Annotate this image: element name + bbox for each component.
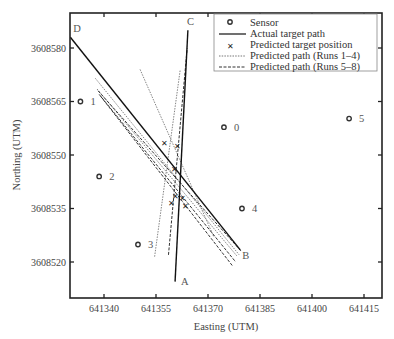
y-tick-label: 3608535 bbox=[31, 203, 66, 214]
predicted-path-runs-5-8 bbox=[101, 96, 233, 265]
y-tick-label: 3608565 bbox=[31, 96, 66, 107]
path-label-A: A bbox=[181, 276, 189, 287]
sensor-marker bbox=[240, 206, 244, 210]
predicted-path-runs-1-4 bbox=[95, 78, 239, 255]
x-tick-label: 641400 bbox=[297, 303, 327, 314]
sensor-label: 1 bbox=[90, 96, 95, 107]
predicted-paths-runs-5-8 bbox=[98, 48, 241, 266]
x-tick-label: 641415 bbox=[349, 303, 379, 314]
predicted-position-marker: ✕ bbox=[161, 139, 168, 148]
sensor-marker bbox=[136, 242, 140, 246]
y-tick-label: 3608550 bbox=[31, 150, 66, 161]
sensor-label: 2 bbox=[109, 171, 114, 182]
predicted-path-runs-5-8 bbox=[99, 94, 236, 262]
legend-label-predicted-position: Predicted target position bbox=[250, 39, 353, 50]
sensor-label: 3 bbox=[148, 239, 153, 250]
y-tick-label: 3608520 bbox=[31, 257, 66, 268]
sensor-label: 5 bbox=[359, 113, 364, 124]
predicted-position-marker: ✕ bbox=[174, 142, 181, 151]
x-axis-title: Easting (UTM) bbox=[194, 321, 259, 333]
predicted-paths-runs-1-4 bbox=[95, 69, 239, 256]
legend-label-sensor: Sensor bbox=[250, 17, 279, 28]
sensor-tracking-chart: ✕✕✕✕✕✕✕ 012345 DBAC 64134064135564137064… bbox=[0, 0, 394, 339]
path-label-D: D bbox=[73, 23, 81, 34]
sensor-marker bbox=[78, 99, 82, 103]
sensor-marker bbox=[97, 174, 101, 178]
sensor-marker bbox=[347, 116, 351, 120]
predicted-position-marker: ✕ bbox=[171, 165, 178, 174]
cross-legend-icon: ✕ bbox=[227, 42, 234, 51]
legend: Sensor Actual target path ✕ Predicted ta… bbox=[214, 14, 377, 73]
y-tick-label: 3608580 bbox=[31, 43, 66, 54]
sensor-label: 4 bbox=[252, 203, 258, 214]
predicted-path-runs-1-4 bbox=[97, 89, 237, 257]
path-label-C: C bbox=[187, 16, 194, 27]
legend-label-actual: Actual target path bbox=[250, 28, 326, 39]
x-tick-label: 641370 bbox=[193, 303, 223, 314]
predicted-position-marker: ✕ bbox=[168, 199, 175, 208]
sensor-marker bbox=[222, 125, 226, 129]
x-tick-label: 641355 bbox=[141, 303, 171, 314]
y-axis: 36085203608535360855036085653608580 bbox=[31, 43, 382, 268]
legend-label-runs-5-8: Predicted path (Runs 5–8) bbox=[250, 61, 360, 73]
path-label-B: B bbox=[242, 250, 249, 261]
x-tick-label: 641340 bbox=[89, 303, 119, 314]
sensor-label: 0 bbox=[234, 122, 239, 133]
x-tick-label: 641385 bbox=[245, 303, 275, 314]
y-axis-title: Northing (UTM) bbox=[11, 119, 23, 190]
predicted-position-marker: ✕ bbox=[182, 202, 189, 211]
